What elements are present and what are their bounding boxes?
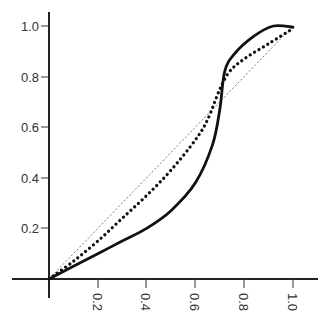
x-ticks: [98, 279, 293, 288]
chart: 1.0 0.8 0.6 0.4 0.2 0.2 0.4 0.6 0.8 1.0: [0, 0, 328, 332]
y-tick-labels: 1.0 0.8 0.6 0.4 0.2: [21, 19, 39, 236]
x-tick-label: 0.8: [236, 293, 251, 311]
x-tick-label: 0.4: [138, 293, 153, 311]
y-tick-label: 0.2: [21, 221, 39, 236]
series-line-thin-dashed: [49, 26, 293, 279]
y-tick-label: 0.8: [21, 70, 39, 85]
x-tick-label: 1.0: [285, 293, 300, 311]
x-tick-label: 0.6: [187, 293, 202, 311]
y-ticks: [41, 26, 49, 228]
x-tick-labels: 0.2 0.4 0.6 0.8 1.0: [90, 293, 300, 311]
series-layer: [49, 26, 293, 279]
y-tick-label: 1.0: [21, 19, 39, 34]
x-tick-label: 0.2: [90, 293, 105, 311]
y-tick-label: 0.6: [21, 120, 39, 135]
y-tick-label: 0.4: [21, 171, 39, 186]
